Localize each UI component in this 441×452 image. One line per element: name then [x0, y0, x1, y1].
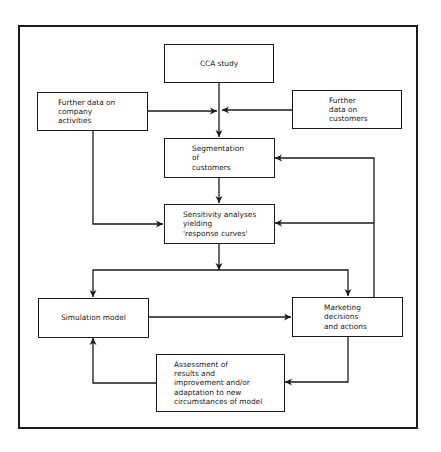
node-label: Simulation model: [61, 313, 126, 322]
node-label: Further data on customers: [329, 96, 368, 124]
node-simulation: Simulation model: [38, 298, 149, 338]
node-assessment: Assessment of results and improvement an…: [156, 354, 285, 412]
node-company-data: Further data on company activities: [37, 92, 148, 131]
node-marketing: Marketing decisions and actions: [292, 297, 403, 337]
node-cca-study: CCA study: [164, 44, 274, 83]
node-customer-data: Further data on customers: [292, 90, 402, 129]
node-label: Further data on company activities: [58, 98, 115, 126]
node-sensitivity: Sensitivity analyses yielding 'response …: [164, 204, 275, 244]
node-label: CCA study: [200, 59, 238, 68]
node-segmentation: Segmentation of customers: [164, 138, 275, 178]
node-label: Segmentation of customers: [192, 144, 244, 172]
node-label: Assessment of results and improvement an…: [174, 360, 262, 406]
node-label: Sensitivity analyses yielding 'response …: [183, 210, 256, 238]
node-label: Marketing decisions and actions: [324, 303, 367, 331]
